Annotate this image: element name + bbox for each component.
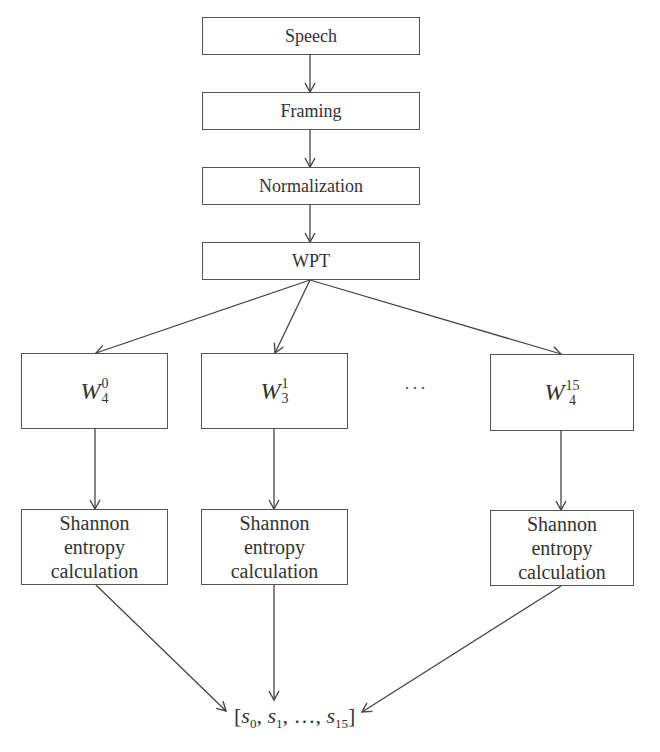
framing-label: Framing [281, 101, 342, 122]
wavelet-label: W 13 [261, 376, 289, 406]
framing-box: Framing [202, 92, 420, 130]
normalization-box: Normalization [202, 167, 420, 205]
wpt-label: WPT [292, 251, 330, 272]
arrow-entropy1-output [96, 585, 226, 711]
wpt-box: WPT [202, 242, 420, 280]
entropy-box-2: Shannon entropy calculation [201, 509, 348, 585]
arrow-entropy3-output [362, 586, 561, 712]
feature-extraction-diagram: Speech Framing Normalization WPT W 04 W … [0, 0, 660, 752]
normalization-label: Normalization [259, 176, 363, 197]
entropy-box-3: Shannon entropy calculation [490, 510, 634, 586]
ellipsis: ··· [404, 378, 428, 399]
arrow-wpt-w415 [310, 280, 561, 354]
wavelet-label: W 154 [545, 378, 580, 408]
speech-label: Speech [285, 26, 337, 47]
arrow-wpt-w40 [96, 280, 310, 353]
wavelet-node-w3-1: W 13 [201, 353, 348, 429]
entropy-box-1: Shannon entropy calculation [21, 509, 168, 585]
output-feature-vector: [s0, s1, …, s15] [234, 703, 355, 732]
arrow-wpt-w31 [275, 280, 310, 353]
wavelet-node-w4-0: W 04 [21, 353, 168, 429]
wavelet-label: W 04 [81, 376, 109, 406]
wavelet-node-w4-15: W 154 [490, 354, 634, 431]
speech-box: Speech [202, 17, 420, 55]
